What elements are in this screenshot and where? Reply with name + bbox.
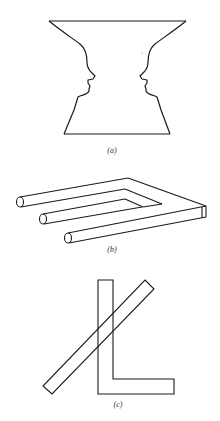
figure-c-l-shape-bar — [0, 0, 220, 421]
figure-c-label: (c) — [98, 400, 138, 409]
